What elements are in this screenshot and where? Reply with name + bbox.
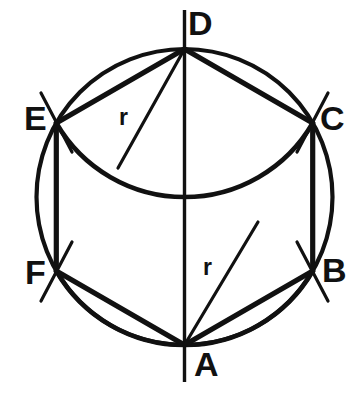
vertex-label-c: C xyxy=(320,101,345,135)
chord-d-c xyxy=(185,49,313,123)
vertex-label-d: D xyxy=(188,6,213,40)
vertex-label-a: A xyxy=(194,347,219,381)
hexagon-construction-figure: D C B A F E r r xyxy=(0,0,356,402)
vertex-label-f: F xyxy=(25,255,46,289)
radius-label-upper: r xyxy=(119,106,128,129)
chord-b-a xyxy=(185,271,313,345)
vertex-label-b: B xyxy=(322,253,347,287)
vertex-label-e: E xyxy=(24,101,47,135)
radius-label-lower: r xyxy=(203,256,212,279)
chord-a-f xyxy=(56,271,184,345)
geometry-canvas xyxy=(0,0,356,402)
